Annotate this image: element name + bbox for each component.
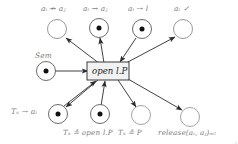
arc-bot2-to-transition xyxy=(101,81,105,106)
token-bottom-2 xyxy=(98,112,103,117)
place-label-top-2: aᵢ → aⱼ xyxy=(83,5,108,12)
token-bottom-1 xyxy=(56,112,61,117)
place-label-bottom-1: Tₛ → aᵢ xyxy=(11,108,37,116)
arc-bot1-to-transition xyxy=(64,81,96,106)
place-label-top-1: aᵢ ↛ aⱼ xyxy=(41,5,66,12)
token-top-3 xyxy=(140,27,145,32)
transition-label: open l.P xyxy=(92,67,127,76)
corner-mark: , xyxy=(235,137,237,144)
arc-top3-to-transition xyxy=(120,38,136,62)
arc-transition-to-bot4 xyxy=(128,79,182,110)
arc-transition-to-bot1 xyxy=(66,80,98,107)
petri-net-figure: open l.P aᵢ ↛ aⱼ aᵢ → aⱼ aᵢ ⇢ l aᵢ ✓ Sem… xyxy=(0,0,238,144)
place-bottom-3[interactable] xyxy=(132,106,151,125)
place-bottom-4[interactable] xyxy=(181,108,200,127)
place-top-4[interactable] xyxy=(174,20,193,39)
arc-transition-to-top4 xyxy=(126,37,175,63)
arc-transition-to-top1 xyxy=(66,38,100,64)
caption-segment-1: Tₛ ≙ open l.P xyxy=(63,129,113,136)
token-top-2 xyxy=(97,26,102,31)
arc-transition-to-top2 xyxy=(100,38,104,63)
caption-segment-3: release(aᵢ, aⱼ)ₘₗ xyxy=(158,129,216,136)
place-label-top-3: aᵢ ⇢ l xyxy=(128,5,148,12)
place-label-top-4: aᵢ ✓ xyxy=(174,5,189,12)
token-sem xyxy=(44,69,49,74)
arc-transition-to-bot3 xyxy=(118,80,136,107)
caption-segment-2: Tₛ ≙ P xyxy=(118,129,142,136)
place-top-1[interactable] xyxy=(48,20,67,39)
place-label-sem: Sem xyxy=(35,52,52,59)
